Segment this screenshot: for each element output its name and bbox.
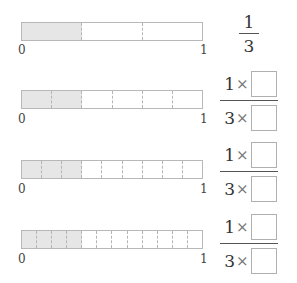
- times-sign: ×: [236, 109, 250, 127]
- empty-segment: [188, 231, 202, 248]
- empty-segment: [82, 91, 112, 108]
- bar-label-one: 1: [200, 183, 208, 195]
- fraction-line: [220, 100, 278, 101]
- denominator-answer-box[interactable]: [251, 105, 277, 131]
- shaded-segment: [22, 231, 37, 248]
- fraction-bar-twelfths: [21, 230, 203, 249]
- empty-segment: [113, 91, 143, 108]
- empty-segment: [143, 161, 163, 178]
- times-sign: ×: [236, 180, 250, 198]
- bar-label-one: 1: [200, 113, 208, 125]
- times-sign: ×: [236, 252, 250, 270]
- numerator-answer-box[interactable]: [251, 71, 277, 97]
- empty-segment: [112, 231, 127, 248]
- times-sign: ×: [236, 75, 250, 93]
- fraction-line: [239, 33, 259, 34]
- bar-label-zero: 0: [18, 44, 26, 56]
- empty-segment: [163, 161, 183, 178]
- fraction-bar-sixths: [21, 90, 203, 109]
- bar-label-zero: 0: [18, 183, 26, 195]
- times-sign: ×: [236, 146, 250, 164]
- denominator-digit: 3: [222, 251, 235, 271]
- empty-segment: [183, 161, 202, 178]
- empty-segment: [82, 23, 142, 40]
- numerator-answer-box[interactable]: [251, 214, 277, 240]
- denominator-answer-box[interactable]: [251, 248, 277, 274]
- empty-segment: [173, 91, 202, 108]
- empty-segment: [82, 231, 97, 248]
- fraction-denominator: 3: [237, 36, 261, 56]
- shaded-segment: [67, 231, 82, 248]
- denominator-digit: 3: [222, 179, 235, 199]
- shaded-segment: [52, 91, 82, 108]
- shaded-segment: [42, 161, 62, 178]
- empty-segment: [173, 231, 188, 248]
- empty-segment: [97, 231, 112, 248]
- denominator-digit: 3: [222, 108, 235, 128]
- shaded-segment: [62, 161, 82, 178]
- shaded-segment: [22, 161, 42, 178]
- fraction-line: [220, 171, 278, 172]
- shaded-segment: [52, 231, 67, 248]
- fraction-bar-ninths: [21, 160, 203, 179]
- empty-segment: [158, 231, 173, 248]
- empty-segment: [102, 161, 122, 178]
- empty-segment: [128, 231, 143, 248]
- times-sign: ×: [236, 218, 250, 236]
- numerator-answer-box[interactable]: [251, 142, 277, 168]
- empty-segment: [143, 231, 158, 248]
- numerator-digit: 1: [222, 74, 235, 94]
- fraction-numerator: 1: [237, 12, 261, 32]
- empty-segment: [143, 91, 173, 108]
- bar-label-one: 1: [200, 44, 208, 56]
- shaded-segment: [37, 231, 52, 248]
- empty-segment: [82, 161, 102, 178]
- empty-segment: [123, 161, 143, 178]
- shaded-segment: [22, 91, 52, 108]
- bar-label-zero: 0: [18, 113, 26, 125]
- numerator-digit: 1: [222, 145, 235, 165]
- denominator-answer-box[interactable]: [251, 176, 277, 202]
- bar-label-zero: 0: [18, 253, 26, 265]
- fraction-line: [220, 243, 278, 244]
- empty-segment: [143, 23, 202, 40]
- bar-label-one: 1: [200, 253, 208, 265]
- shaded-segment: [22, 23, 82, 40]
- numerator-digit: 1: [222, 217, 235, 237]
- fraction-bar-thirds: [21, 22, 203, 41]
